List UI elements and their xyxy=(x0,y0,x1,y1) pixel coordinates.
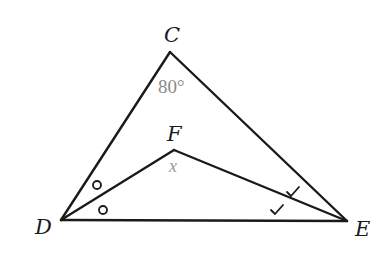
check-mark-upper xyxy=(287,187,299,196)
angle-label-c: 80° xyxy=(158,76,185,97)
triangle-diagram: C F D E 80° x xyxy=(0,0,390,273)
angle-label-f: x xyxy=(168,156,177,176)
segment-cd xyxy=(61,52,170,220)
check-mark-lower xyxy=(271,205,283,214)
circle-mark-upper xyxy=(93,181,101,189)
circle-mark-lower xyxy=(99,206,107,214)
vertex-label-e: E xyxy=(354,217,370,241)
vertex-label-d: D xyxy=(34,215,52,239)
vertex-label-f: F xyxy=(166,122,183,146)
vertex-label-c: C xyxy=(164,23,180,47)
segment-df xyxy=(61,150,174,220)
segment-de xyxy=(61,220,347,221)
segment-ce xyxy=(170,52,347,221)
segment-fe xyxy=(174,150,347,221)
